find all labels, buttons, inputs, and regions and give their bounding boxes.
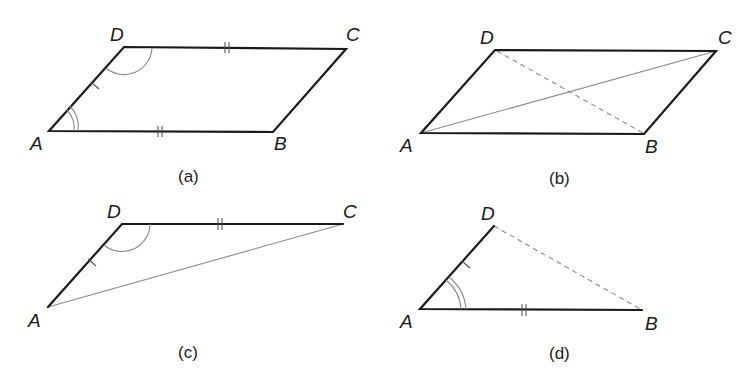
vertex-label-b: B [645,136,658,157]
diagonal-ac [421,51,716,133]
tick-ad [91,82,99,89]
vertex-label-a: A [27,310,41,331]
vertex-label-a: A [399,311,413,332]
vertex-label-a: A [399,135,413,156]
vertex-label-c: C [718,27,732,48]
angle-arc-a-inner [67,110,74,131]
side-ac [48,224,343,307]
panel-c: D C A (c) [27,201,357,362]
vertex-label-a: A [29,133,43,154]
sides-da-ab [420,226,642,310]
panel-caption-b: (b) [549,169,570,188]
vertex-label-c: C [343,201,357,222]
panel-caption-a: (a) [178,167,199,186]
panel-a: D C A B (a) [29,24,360,186]
diagonal-db [497,51,643,133]
vertex-label-b: B [645,313,658,334]
vertex-label-d: D [110,24,124,45]
tick-ad [88,259,96,266]
angle-arc-d [106,48,152,75]
vertex-label-c: C [346,24,360,45]
angle-arc-a-outer [449,277,466,309]
panel-caption-d: (d) [549,344,570,363]
side-db-dashed [494,226,642,310]
geometry-figure: D C A B (a) D C A B (b) D C A (c) [0,0,741,383]
vertex-label-b: B [274,133,287,154]
panel-d: D A B (d) [399,203,658,363]
vertex-label-d: D [481,203,495,224]
vertex-label-d: D [107,201,121,222]
tick-ad [462,261,470,268]
panel-b: D C A B (b) [399,27,732,188]
angle-arc-a-inner [446,280,461,309]
parallelogram-abcd [49,47,346,132]
panel-caption-c: (c) [178,343,198,362]
vertex-label-d: D [480,27,494,48]
